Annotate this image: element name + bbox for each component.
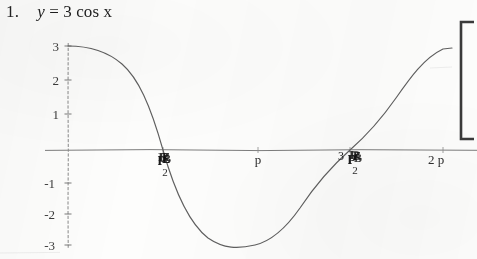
- answer-bracket: [458, 20, 476, 141]
- fraction-denominator: 2: [148, 167, 182, 178]
- x-axis-line: [45, 150, 477, 151]
- y-tick-label-2: 2: [33, 74, 59, 87]
- cosine-plot: [0, 0, 477, 259]
- worksheet-page: 1. y = 3 cos x: [0, 0, 477, 259]
- cosine-curve: [68, 46, 452, 247]
- plot-canvas: [0, 0, 477, 259]
- garbled-glyph-cluster: p E R B: [154, 152, 176, 165]
- overstrike-glyph-4: B: [347, 152, 369, 165]
- y-tick-label-minus-3: -3: [29, 239, 55, 252]
- garbled-glyph-cluster: p E R B: [344, 150, 366, 163]
- bracket-glyph-icon: [458, 20, 476, 141]
- x-tick-label-pi: p: [248, 153, 268, 166]
- fraction-denominator: 2: [338, 165, 372, 176]
- x-tick-label-pi-over-2: p E R B 2: [148, 152, 182, 178]
- x-tick-label-2pi: 2 p: [420, 153, 452, 166]
- y-tick-label-minus-1: -1: [29, 177, 55, 190]
- y-tick-label-1: 1: [33, 108, 59, 121]
- x-tick-label-3pi-over-2: 3 p E R B 2: [332, 150, 372, 176]
- y-tick-label-minus-2: -2: [29, 208, 55, 221]
- y-tick-label-3: 3: [33, 40, 59, 53]
- overstrike-glyph-4: B: [156, 153, 178, 166]
